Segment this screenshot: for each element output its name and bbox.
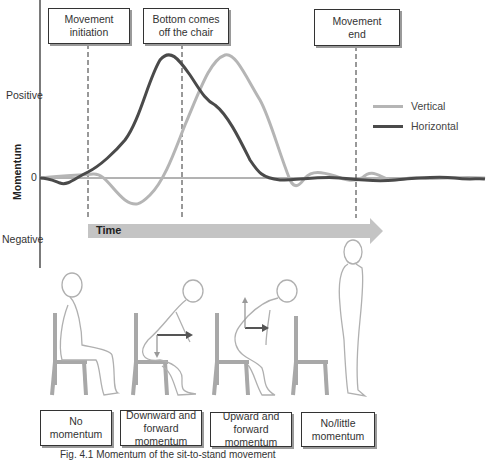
legend-horizontal: Horizontal [373,120,458,132]
time-label: Time [96,224,121,236]
event-end-line2: end [348,28,366,41]
event-bottom-off-line2: off the chair [159,26,214,39]
figure-rising [235,280,297,395]
legend-vertical-label: Vertical [411,100,445,112]
phase-4-line1: No/little [320,417,355,430]
event-box-initiation: Movement initiation [48,8,130,44]
chair-1 [52,313,87,395]
event-initiation-line1: Movement [64,13,113,26]
phase-1-line2: momentum [50,428,103,441]
y-axis-label: Momentum [11,144,23,200]
event-box-end: Movement end [314,9,400,46]
figure-seated [60,273,118,395]
vertical-swatch [373,105,403,108]
phase-box-upward-forward: Upward and forward momentum [210,412,292,447]
phase-3-line2: forward momentum [211,423,291,449]
phase-2-line2: forward momentum [121,422,201,448]
negative-label: Negative [2,233,43,245]
phase-2-line1: Downward and [126,409,196,422]
chair-3 [214,313,249,395]
chair-4 [293,316,328,395]
figure-caption: Fig. 4.1 Momentum of the sit-to-stand mo… [60,449,276,460]
horizontal-swatch [373,125,403,128]
phase-4-line2: momentum [312,430,365,443]
phase-box-downward-forward: Downward and forward momentum [120,410,202,446]
event-bottom-off-line1: Bottom comes [152,13,219,26]
phase-1-line1: No [69,415,82,428]
event-box-bottom-off: Bottom comes off the chair [143,8,229,44]
legend-vertical: Vertical [373,100,445,112]
time-arrow [88,218,383,244]
figure-standing [339,240,365,396]
event-initiation-line2: initiation [70,26,109,39]
event-end-line1: Movement [332,15,381,28]
zero-label: 0 [31,171,37,183]
phase-box-no-little: No/little momentum [301,412,375,447]
figure-leaning [143,280,203,395]
phase-box-no-momentum: No momentum [40,410,112,446]
positive-label: Positive [6,89,43,101]
legend-horizontal-label: Horizontal [411,120,458,132]
downward-forward-arrows [154,331,193,358]
phase-3-line1: Upward and [223,410,280,423]
